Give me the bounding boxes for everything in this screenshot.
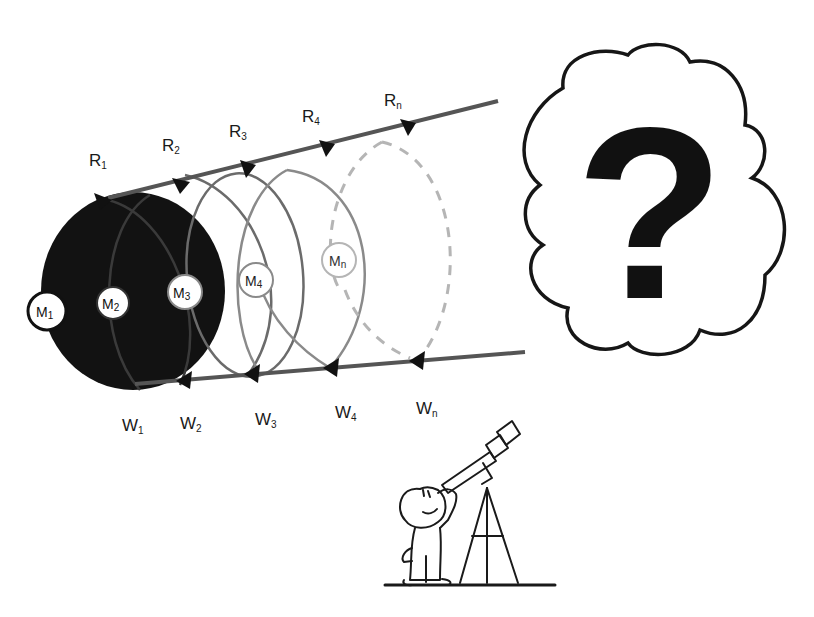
label-w1: W1 [122, 416, 144, 436]
label-r1: R1 [89, 151, 107, 171]
marker-mn: Mn [322, 243, 356, 277]
diagram-canvas: M1 M2 M3 M4 Mn R1 R2 R3 R4 Rn W1 W2 W3 W… [0, 0, 814, 617]
observer-with-telescope [385, 421, 555, 585]
marker-m1: M1 [28, 292, 66, 330]
label-w2: W2 [180, 414, 202, 434]
marker-m4: M4 [239, 263, 273, 297]
label-wn: Wn [416, 399, 438, 419]
question-mark: ? [575, 76, 725, 350]
label-rn: Rn [384, 91, 402, 111]
label-r4: R4 [302, 107, 320, 127]
label-r3: R3 [229, 122, 247, 142]
label-r2: R2 [162, 136, 180, 156]
label-w4: W4 [335, 403, 357, 423]
marker-m3: M3 [168, 275, 202, 309]
marker-m2: M2 [97, 287, 129, 319]
label-w3: W3 [255, 410, 277, 430]
